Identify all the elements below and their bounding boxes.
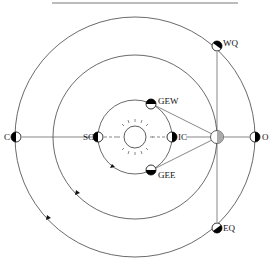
label-sc: SC [83,132,94,142]
sun-icon [117,119,153,155]
label-o: O [262,132,269,142]
planet-wq-icon [212,41,222,51]
label-eq: EQ [223,223,235,233]
label-ic: IC [178,132,187,142]
planet-eq-icon [212,223,222,233]
label-c: C [4,132,10,142]
planet-o-icon [250,132,260,142]
orbit-direction-arrow-icon [46,215,51,220]
planet-gew-icon [146,99,156,109]
planet-gee-icon [146,165,156,175]
earth-icon [211,131,224,144]
planet-sc-icon [93,132,103,142]
label-wq: WQ [223,38,238,48]
orbit-direction-arrow-icon [75,190,80,195]
gew-line [156,106,212,134]
label-gew: GEW [158,96,179,106]
gee-line [156,140,212,168]
planetary-configurations-diagram: C SC IC O WQ EQ GEW GEE [0,0,273,266]
label-gee: GEE [158,170,176,180]
planet-ic-icon [167,132,177,142]
planet-c-icon [11,132,21,142]
